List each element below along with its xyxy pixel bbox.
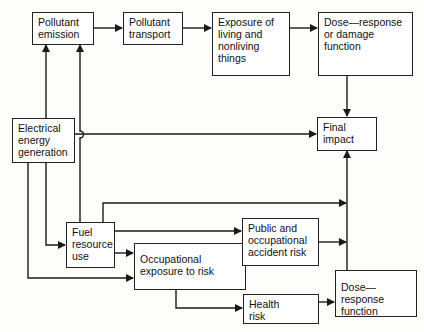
node-dose-response-damage-function: Dose—response or damage function	[318, 12, 413, 76]
node-exposure: Exposure of living and nonliving things	[212, 12, 290, 76]
node-final-impact: Final impact	[317, 117, 377, 151]
node-health-risk: Health risk	[243, 294, 319, 324]
node-fuel-resource-use: Fuel resource use	[66, 222, 115, 268]
energy-impact-diagram: Pollutant emission Pollutant transport E…	[0, 0, 424, 332]
node-pollutant-emission: Pollutant emission	[32, 12, 94, 45]
node-electrical-energy-generation: Electrical energy generation	[12, 118, 75, 163]
node-public-occupational-accident-risk: Public and occupational accident risk	[242, 218, 319, 266]
arrow-occupational-to-health	[176, 289, 242, 308]
node-occupational-exposure: Occupational exposure to risk	[134, 243, 246, 290]
node-pollutant-transport: Pollutant transport	[123, 12, 183, 45]
arrow-eeg-to-fuel	[46, 162, 65, 245]
node-dose-response-function: Dose—response function	[335, 270, 417, 317]
